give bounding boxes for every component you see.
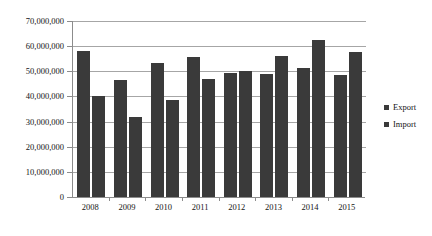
y-axis-tick-label: 30,000,000 [26, 117, 64, 126]
plot-area [72, 21, 365, 197]
y-axis-tick-label: 10,000,000 [26, 168, 64, 177]
bar-export [77, 51, 90, 197]
bar-group [334, 21, 362, 197]
x-axis-tick-mark [219, 197, 220, 201]
y-axis-tick-label: 40,000,000 [26, 92, 64, 101]
bar-export [260, 74, 273, 197]
y-axis-tick-label: 20,000,000 [26, 142, 64, 151]
y-axis-tick-mark [67, 147, 72, 148]
chart-legend: ExportImport [384, 99, 432, 133]
x-axis-tick-mark [328, 197, 329, 201]
y-axis: 010,000,00020,000,00030,000,00040,000,00… [0, 0, 64, 236]
y-axis-tick-label: 60,000,000 [26, 42, 64, 51]
bar-import [239, 71, 252, 197]
y-axis-tick-mark [67, 96, 72, 97]
y-axis-tick-mark [67, 122, 72, 123]
bar-export [297, 68, 310, 197]
x-axis-tick-mark [255, 197, 256, 201]
y-axis-tick-mark [67, 197, 72, 198]
bar-group [151, 21, 179, 197]
bar-export [187, 57, 200, 197]
legend-label: Import [393, 120, 416, 129]
bar-group [77, 21, 105, 197]
x-axis-tick-label: 2009 [109, 203, 146, 212]
x-axis-tick-label: 2015 [328, 203, 365, 212]
legend-entry-import: Import [384, 116, 432, 133]
bar-group [224, 21, 252, 197]
bar-import [349, 52, 362, 197]
x-axis-tick-mark [292, 197, 293, 201]
y-axis-tick-label: 50,000,000 [26, 67, 64, 76]
bar-import [166, 100, 179, 197]
bar-export [151, 63, 164, 198]
legend-swatch-icon [384, 105, 389, 110]
x-axis-tick-label: 2010 [145, 203, 182, 212]
x-axis-tick-mark [145, 197, 146, 201]
legend-swatch-icon [384, 122, 389, 127]
bar-import [202, 79, 215, 197]
legend-label: Export [393, 103, 416, 112]
x-axis-tick-label: 2013 [255, 203, 292, 212]
y-axis-tick-mark [67, 46, 72, 47]
y-axis-tick-mark [67, 71, 72, 72]
bar-import [275, 56, 288, 197]
y-axis-tick-mark [67, 172, 72, 173]
x-axis-tick-mark [182, 197, 183, 201]
bar-import [92, 96, 105, 197]
bar-import [129, 117, 142, 197]
bar-group [297, 21, 325, 197]
bar-group [187, 21, 215, 197]
y-axis-tick-mark [67, 21, 72, 22]
x-axis-tick-label: 2011 [182, 203, 219, 212]
y-axis-tick-label: 0 [60, 193, 64, 202]
x-axis-tick-label: 2012 [219, 203, 256, 212]
bar-import [312, 40, 325, 197]
bar-export [334, 75, 347, 197]
bar-group [114, 21, 142, 197]
y-axis-tick-label: 70,000,000 [26, 17, 64, 26]
x-axis-tick-mark [109, 197, 110, 201]
bar-group [260, 21, 288, 197]
bar-export [114, 80, 127, 197]
bar-export [224, 73, 237, 197]
x-axis-tick-label: 2014 [292, 203, 329, 212]
bar-chart-figure: 010,000,00020,000,00030,000,00040,000,00… [0, 0, 432, 236]
legend-entry-export: Export [384, 99, 432, 116]
x-axis-tick-label: 2008 [72, 203, 109, 212]
